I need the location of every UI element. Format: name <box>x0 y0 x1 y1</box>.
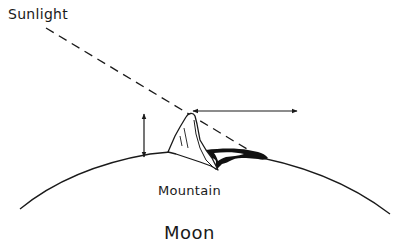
sunlight-ray <box>46 28 252 152</box>
mountain-shape <box>168 113 218 170</box>
moon-mountain-shadow-diagram <box>0 0 402 248</box>
moon-label: Moon <box>164 222 215 243</box>
mountain-label: Mountain <box>158 183 221 198</box>
sunlight-label: Sunlight <box>8 6 68 22</box>
